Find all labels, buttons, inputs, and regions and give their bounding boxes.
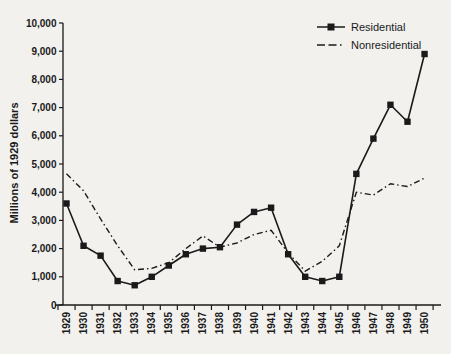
data-point-1947	[370, 135, 376, 141]
data-point-1937	[200, 245, 206, 251]
x-tick-label: 1933	[129, 312, 140, 335]
data-point-1946	[353, 171, 359, 177]
x-tick-label: 1942	[283, 312, 294, 335]
data-point-1933	[132, 282, 138, 288]
x-tick-label: 1934	[146, 312, 157, 335]
x-tick-label: 1938	[214, 312, 225, 335]
x-tick-label: 1940	[249, 312, 260, 335]
legend-item-residential: Residential	[316, 20, 421, 34]
data-point-1930	[80, 243, 86, 249]
data-point-1929	[63, 200, 69, 206]
y-tick-label: 5,000	[31, 159, 56, 170]
residential-series-symbol	[316, 21, 346, 33]
x-tick-label: 1939	[232, 312, 243, 335]
data-point-1944	[319, 278, 325, 284]
y-tick-label: 7,000	[31, 102, 56, 113]
residential-line	[67, 54, 425, 285]
legend-label-nonresidential: Nonresidential	[351, 39, 421, 51]
x-tick-label: 1944	[317, 312, 328, 335]
y-tick-label: 6,000	[31, 130, 56, 141]
data-point-1948	[387, 102, 393, 108]
x-tick-label: 1950	[419, 312, 430, 335]
data-point-1945	[336, 274, 342, 280]
x-tick-label: 1936	[180, 312, 191, 335]
data-point-1943	[302, 274, 308, 280]
nonresidential-series-symbol	[316, 39, 346, 51]
data-point-1934	[149, 274, 155, 280]
construction-spending-chart: 01,0002,0003,0004,0005,0006,0007,0008,00…	[0, 0, 451, 354]
data-point-1936	[183, 251, 189, 257]
y-tick-label: 10,000	[26, 18, 57, 29]
y-tick-label: 2,000	[31, 243, 56, 254]
x-tick-label: 1930	[78, 312, 89, 335]
data-point-1932	[114, 278, 120, 284]
legend-label-residential: Residential	[351, 21, 405, 33]
x-tick-label: 1945	[334, 312, 345, 335]
x-tick-label: 1946	[351, 312, 362, 335]
x-tick-label: 1937	[197, 312, 208, 335]
y-tick-label: 9,000	[31, 46, 56, 57]
chart-canvas: 01,0002,0003,0004,0005,0006,0007,0008,00…	[0, 0, 451, 354]
y-tick-label: 3,000	[31, 215, 56, 226]
data-point-1949	[404, 119, 410, 125]
x-tick-label: 1943	[300, 312, 311, 335]
y-tick-label: 1,000	[31, 271, 56, 282]
x-tick-label: 1948	[385, 312, 396, 335]
chart-legend: Residential Nonresidential	[316, 20, 421, 52]
nonresidential-line	[67, 174, 425, 271]
x-tick-label: 1931	[95, 312, 106, 335]
x-tick-label: 1932	[112, 312, 123, 335]
x-tick-label: 1947	[368, 312, 379, 335]
x-tick-label: 1929	[61, 312, 72, 335]
data-point-1940	[251, 209, 257, 215]
data-point-1941	[268, 205, 274, 211]
x-tick-label: 1935	[163, 312, 174, 335]
x-tick-label: 1941	[266, 312, 277, 335]
y-tick-label: 0	[51, 300, 57, 311]
y-tick-label: 4,000	[31, 187, 56, 198]
data-point-1950	[421, 51, 427, 57]
data-point-1939	[234, 221, 240, 227]
legend-item-nonresidential: Nonresidential	[316, 38, 421, 52]
y-tick-label: 8,000	[31, 74, 56, 85]
y-axis-title: Millions of 1929 dollars	[8, 102, 20, 223]
x-tick-label: 1949	[402, 312, 413, 335]
data-point-1931	[97, 252, 103, 258]
